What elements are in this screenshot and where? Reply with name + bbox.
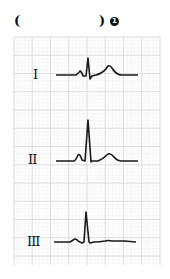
lead-label-1: I <box>33 67 37 82</box>
lead-label-3: III <box>27 234 39 249</box>
ecg-trace-lead-1 <box>56 58 138 79</box>
lead-label-2: II <box>28 152 36 167</box>
ecg-trace-lead-2 <box>56 120 138 162</box>
ecg-grid-diagram <box>0 0 170 279</box>
